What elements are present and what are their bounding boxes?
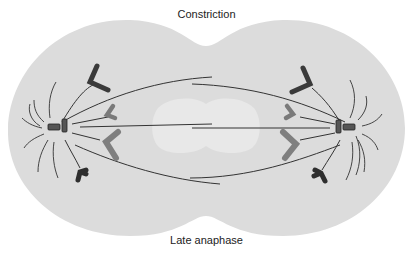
late-anaphase-label: Late anaphase (0, 234, 413, 246)
midzone (152, 98, 260, 153)
cell-diagram (0, 0, 413, 260)
